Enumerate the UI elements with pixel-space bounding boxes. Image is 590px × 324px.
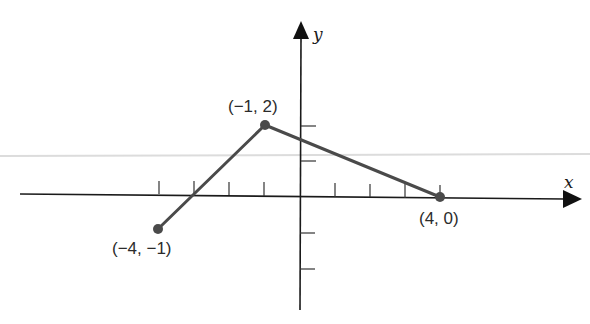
coordinate-plane-figure: y x (−1, 2) (−4, −1) (4, 0) [0,0,590,324]
y-axis-label: y [313,26,323,43]
point-label-neg4-neg1: (−4, −1) [112,240,172,257]
point-neg1-2 [260,120,270,130]
graph-canvas [0,0,590,324]
point-neg4-neg1 [153,224,163,234]
x-axis-arrow-icon [563,190,582,208]
point-label-4-0: (4, 0) [419,210,459,227]
y-axis-arrow-icon [293,21,309,39]
graph-polyline [158,125,440,229]
point-4-0 [435,192,445,202]
scan-artifact-line [0,154,590,156]
y-axis-ticks [300,126,316,269]
point-label-neg1-2: (−1, 2) [228,98,278,115]
x-axis [20,194,566,199]
x-axis-label: x [564,174,574,191]
